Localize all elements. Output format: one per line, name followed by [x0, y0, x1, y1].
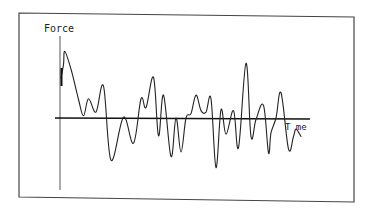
x-axis-label: T me [285, 123, 307, 132]
figure-frame [19, 13, 354, 202]
x-axis [55, 118, 310, 119]
force-signal-line [61, 51, 301, 167]
y-axis-label: Force [44, 24, 74, 34]
